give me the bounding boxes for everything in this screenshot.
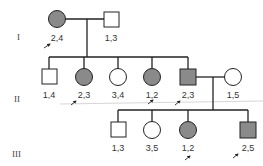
proband-arrow-icon — [175, 101, 180, 105]
genotype-II-4: 1,2 — [146, 90, 159, 100]
genotype-II-1: 1,4 — [43, 90, 56, 100]
genotype-III-4: 2,5 — [242, 143, 255, 153]
genotype-III-1: 1,3 — [112, 143, 125, 153]
pedigree-svg: I II III 2,4 1,3 1,4 2,3 3,4 1,2 2,3 1,5 — [0, 0, 263, 166]
generation-label-3: III — [12, 149, 21, 159]
genotype-II-6: 1,5 — [227, 90, 240, 100]
individual-II-1-male — [42, 69, 57, 84]
genotype-I-1: 2,4 — [51, 33, 64, 43]
individual-II-3-female — [110, 69, 127, 86]
genotype-II-3: 3,4 — [112, 90, 125, 100]
genotype-III-2: 3,5 — [146, 143, 159, 153]
individual-III-4-affected-male — [240, 122, 256, 138]
proband-arrow-icon — [185, 156, 190, 160]
genotype-III-3: 1,2 — [182, 143, 195, 153]
genotype-I-2: 1,3 — [105, 33, 118, 43]
individual-II-2-affected-female — [76, 69, 93, 86]
generation-label-2: II — [14, 94, 20, 104]
individual-III-2-female — [144, 122, 161, 139]
genotype-II-2: 2,3 — [78, 90, 91, 100]
individual-III-3-affected-female — [180, 122, 197, 139]
proband-arrow-icon — [148, 100, 153, 104]
proband-arrow-icon — [71, 101, 76, 105]
individual-II-4-affected-female — [144, 69, 161, 86]
individual-II-5-affected-male — [180, 69, 196, 85]
individual-II-6-female — [225, 69, 242, 86]
generation-label-1: I — [17, 32, 20, 42]
individual-I-2-male — [104, 12, 119, 27]
individual-III-1-male — [111, 122, 126, 137]
genotype-II-5: 2,3 — [182, 90, 195, 100]
proband-arrow-icon — [44, 44, 50, 48]
scan-artifact-line — [60, 101, 263, 104]
individual-I-1-affected-female — [49, 11, 66, 28]
proband-arrow-icon — [233, 154, 238, 158]
pedigree-chart: I II III 2,4 1,3 1,4 2,3 3,4 1,2 2,3 1,5 — [0, 0, 263, 166]
